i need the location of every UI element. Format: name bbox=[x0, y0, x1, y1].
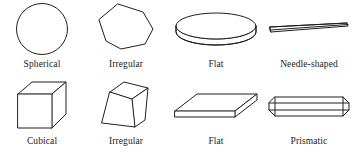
shape-label: Needle-shaped bbox=[280, 59, 338, 70]
shape-label: Spherical bbox=[24, 59, 61, 70]
cube-shape-icon bbox=[0, 77, 84, 135]
shape-label: Prismatic bbox=[291, 136, 328, 147]
shape-label: Flat bbox=[208, 59, 223, 70]
shape-row-top: Spherical Irregular Flat bbox=[0, 0, 354, 77]
shape-cell-irregular-polygon: Irregular bbox=[84, 0, 168, 77]
flat-disc-shape-icon bbox=[168, 0, 264, 58]
sphere-shape-icon bbox=[0, 0, 84, 58]
shape-cell-needle: Needle-shaped bbox=[264, 0, 354, 77]
shape-cell-prismatic: Prismatic bbox=[264, 77, 354, 154]
needle-shape-icon bbox=[264, 0, 354, 58]
shape-label: Irregular bbox=[109, 136, 143, 147]
irregular-frustum-shape-icon bbox=[84, 77, 168, 135]
shape-row-bottom: Cubical Irregular Flat bbox=[0, 77, 354, 154]
shape-cell-cubical: Cubical bbox=[0, 77, 84, 154]
flat-plate-shape-icon bbox=[168, 77, 264, 135]
prismatic-shape-icon bbox=[264, 77, 354, 135]
irregular-polygon-shape-icon bbox=[84, 0, 168, 58]
shape-label: Flat bbox=[208, 136, 223, 147]
shape-cell-irregular-frustum: Irregular bbox=[84, 77, 168, 154]
particle-shape-figure: Spherical Irregular Flat bbox=[0, 0, 354, 155]
shape-cell-flat-plate: Flat bbox=[168, 77, 264, 154]
shape-cell-spherical: Spherical bbox=[0, 0, 84, 77]
shape-label: Cubical bbox=[27, 136, 57, 147]
shape-cell-flat-disc: Flat bbox=[168, 0, 264, 77]
shape-label: Irregular bbox=[109, 59, 143, 70]
